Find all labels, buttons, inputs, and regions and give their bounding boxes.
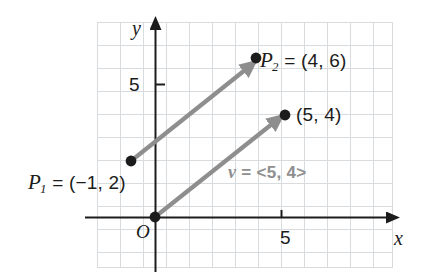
point-5-4-coordinates: (5, 4) — [296, 104, 342, 125]
point-p1 — [126, 156, 137, 167]
plot-canvas — [0, 0, 424, 278]
x-axis-tick-label-5: 5 — [280, 228, 291, 247]
origin-label: O — [136, 222, 150, 241]
p1-coordinates: = (−1, 2) — [47, 172, 126, 193]
point-origin — [150, 212, 161, 223]
axis-y — [156, 28, 166, 272]
axis-label-y: y — [132, 18, 141, 38]
label-point-5-4: (5, 4) — [296, 105, 342, 124]
vector-components: = <5, 4> — [236, 163, 306, 182]
p1-subscript: 1 — [40, 181, 47, 196]
point-5-4 — [280, 110, 291, 121]
p2-coordinates: = (4, 6) — [279, 50, 347, 71]
y-axis-tick-label-5: 5 — [129, 75, 140, 94]
vector-p1-p2 — [131, 70, 245, 161]
label-point-p2: P2 = (4, 6) — [260, 50, 347, 73]
vector-diagram-figure: P1 = (−1, 2) P2 = (4, 6) (5, 4) v = <5, … — [0, 0, 424, 278]
axis-x — [85, 210, 388, 218]
p2-subscript: 2 — [272, 59, 279, 74]
label-vector-v: v = <5, 4> — [228, 163, 307, 181]
label-point-p1: P1 = (−1, 2) — [28, 172, 126, 195]
axis-label-x: x — [394, 228, 403, 248]
